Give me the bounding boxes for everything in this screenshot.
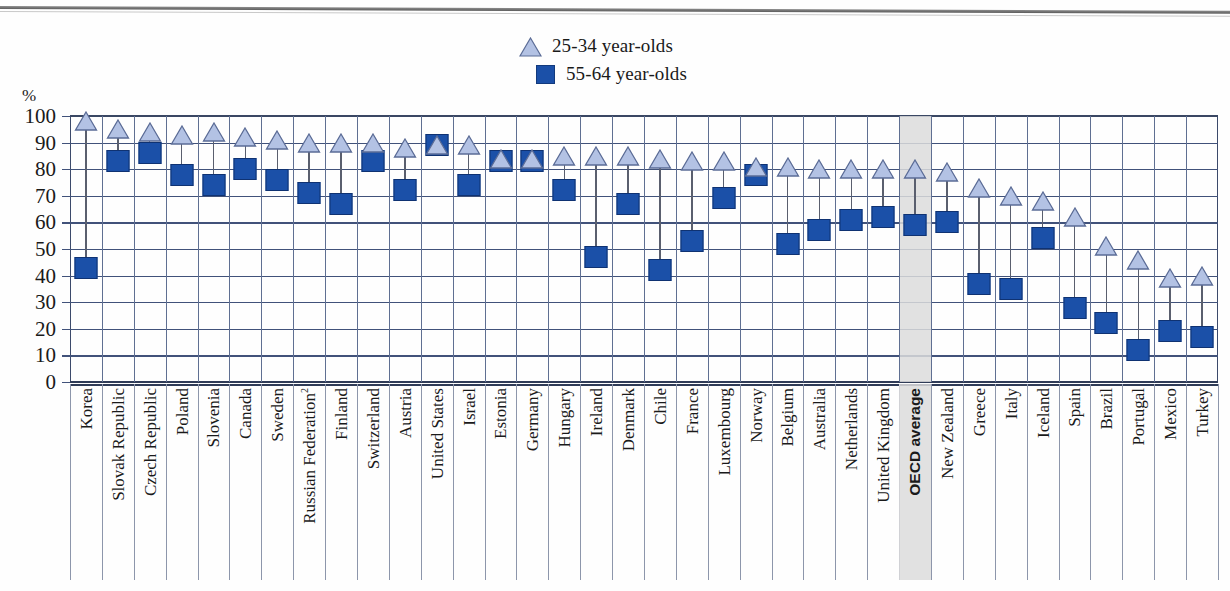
data-point-55-64[interactable] — [170, 164, 193, 186]
data-point-25-34[interactable] — [839, 159, 863, 180]
data-point-55-64[interactable] — [872, 206, 895, 228]
data-point-55-64[interactable] — [1063, 297, 1086, 319]
y-axis-tick-label: 40 — [35, 265, 56, 286]
data-point-55-64[interactable] — [967, 273, 990, 295]
data-point-25-34[interactable] — [999, 185, 1023, 206]
data-point-25-34[interactable] — [935, 161, 959, 182]
data-point-55-64[interactable] — [202, 174, 225, 196]
x-axis-tick-label: Ireland — [588, 388, 605, 436]
data-point-25-34[interactable] — [871, 159, 895, 180]
data-point-55-64[interactable] — [1127, 339, 1150, 361]
y-axis-tick-mark — [62, 249, 70, 250]
data-point-55-64[interactable] — [138, 142, 161, 164]
data-point-55-64[interactable] — [361, 150, 384, 172]
data-point-55-64[interactable] — [553, 179, 576, 201]
data-point-25-34[interactable] — [744, 156, 768, 177]
data-point-55-64[interactable] — [1031, 227, 1054, 249]
x-axis-category: Finland — [325, 384, 357, 580]
x-axis-tick-label: United Kingdom — [875, 388, 892, 503]
data-point-25-34[interactable] — [202, 121, 226, 142]
x-axis-tick-label: France — [683, 388, 700, 434]
x-axis-category: Hungary — [548, 384, 580, 580]
x-axis-tick-label: Finland — [333, 388, 350, 440]
data-point-55-64[interactable] — [904, 214, 927, 236]
data-point-25-34[interactable] — [584, 145, 608, 166]
data-point-25-34[interactable] — [329, 132, 353, 153]
data-point-55-64[interactable] — [1095, 312, 1118, 334]
x-axis-category: Iceland — [1027, 384, 1059, 580]
legend-label-55-64: 55-64 year-olds — [566, 63, 687, 85]
data-point-25-34[interactable] — [297, 132, 321, 153]
x-axis-tick-label: OECD average — [907, 388, 923, 496]
data-point-55-64[interactable] — [680, 230, 703, 252]
data-point-55-64[interactable] — [776, 233, 799, 255]
y-axis-tick-mark — [62, 169, 70, 170]
data-point-25-34[interactable] — [265, 129, 289, 150]
data-point-25-34[interactable] — [680, 151, 704, 172]
data-point-55-64[interactable] — [1159, 320, 1182, 342]
x-axis-tick-label: Luxembourg — [715, 388, 732, 476]
data-point-55-64[interactable] — [1191, 326, 1214, 348]
data-point-55-64[interactable] — [106, 150, 129, 172]
data-point-25-34[interactable] — [1063, 207, 1087, 228]
data-point-55-64[interactable] — [266, 169, 289, 191]
data-point-55-64[interactable] — [999, 278, 1022, 300]
data-point-25-34[interactable] — [74, 111, 98, 132]
data-point-25-34[interactable] — [1190, 265, 1214, 286]
data-point-25-34[interactable] — [233, 127, 257, 148]
x-axis-tick-label: Australia — [811, 388, 828, 450]
data-point-25-34[interactable] — [393, 137, 417, 158]
x-axis-category: Israel — [453, 384, 485, 580]
data-point-25-34[interactable] — [457, 135, 481, 156]
data-point-55-64[interactable] — [457, 174, 480, 196]
data-point-55-64[interactable] — [298, 182, 321, 204]
data-point-25-34[interactable] — [170, 124, 194, 145]
data-point-25-34[interactable] — [648, 148, 672, 169]
chart-plot-area — [70, 116, 1218, 382]
x-axis-category: Slovak Republic — [102, 384, 134, 580]
x-axis-tick-label: Switzerland — [364, 388, 381, 469]
data-point-55-64[interactable] — [648, 259, 671, 281]
data-point-25-34[interactable] — [1126, 249, 1150, 270]
x-axis-category: Austria — [389, 384, 421, 580]
x-axis-tick-label: New Zealand — [938, 388, 955, 479]
data-point-25-34[interactable] — [361, 132, 385, 153]
x-axis-tick-label: Israel — [460, 388, 477, 426]
data-point-25-34[interactable] — [425, 135, 449, 156]
marker-connector-stem — [978, 188, 980, 284]
data-point-55-64[interactable] — [808, 219, 831, 241]
data-point-55-64[interactable] — [712, 187, 735, 209]
data-point-25-34[interactable] — [1094, 236, 1118, 257]
data-point-55-64[interactable] — [935, 211, 958, 233]
y-axis-tick-label: 70 — [35, 185, 56, 206]
x-axis-category: Russian Federation2 — [293, 384, 325, 580]
data-point-55-64[interactable] — [840, 209, 863, 231]
data-point-55-64[interactable] — [330, 193, 353, 215]
data-point-25-34[interactable] — [138, 121, 162, 142]
data-point-25-34[interactable] — [106, 119, 130, 140]
data-point-25-34[interactable] — [520, 148, 544, 169]
triangle-icon — [519, 37, 541, 56]
y-axis-tick-mark — [62, 276, 70, 277]
data-point-55-64[interactable] — [617, 193, 640, 215]
data-point-55-64[interactable] — [74, 257, 97, 279]
data-point-25-34[interactable] — [489, 148, 513, 169]
x-axis-category: Slovenia — [198, 384, 230, 580]
data-point-25-34[interactable] — [776, 156, 800, 177]
data-point-25-34[interactable] — [712, 151, 736, 172]
chart-legend: 25-34 year-olds 55-64 year-olds — [519, 32, 687, 88]
data-point-25-34[interactable] — [903, 159, 927, 180]
data-point-25-34[interactable] — [807, 159, 831, 180]
data-point-55-64[interactable] — [585, 246, 608, 268]
data-point-25-34[interactable] — [552, 145, 576, 166]
data-point-55-64[interactable] — [234, 158, 257, 180]
marker-connector-stem — [1010, 196, 1012, 289]
footnote-marker: 2 — [299, 388, 310, 393]
data-point-25-34[interactable] — [967, 177, 991, 198]
data-point-25-34[interactable] — [1158, 268, 1182, 289]
data-point-55-64[interactable] — [393, 179, 416, 201]
x-axis-tick-label: Sweden — [269, 388, 286, 442]
data-point-25-34[interactable] — [1031, 191, 1055, 212]
y-axis-tick-mark — [62, 116, 70, 117]
data-point-25-34[interactable] — [616, 145, 640, 166]
